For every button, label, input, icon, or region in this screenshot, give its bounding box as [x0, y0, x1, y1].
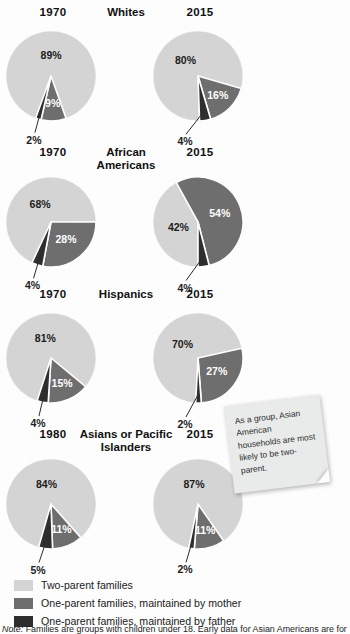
slice-label-two-parent: 68% — [30, 198, 52, 210]
year-label-left: 1970 — [23, 288, 83, 300]
footnote: Note: Families are groups with children … — [2, 624, 350, 634]
legend-label: Two-parent families — [41, 579, 133, 591]
slice-label-mother: 27% — [206, 365, 228, 377]
slice-label-two-parent: 89% — [41, 49, 63, 61]
year-label-right: 2015 — [170, 6, 230, 18]
pie-svg: 68%28%4% — [3, 174, 123, 284]
pie-chart-asians-1980: 84%11%5% — [3, 456, 123, 561]
legend-item-mother: One-parent families, maintained by mothe… — [14, 595, 344, 611]
year-label-left: 1980 — [23, 428, 83, 440]
slice-label-mother: 28% — [55, 233, 77, 245]
slice-label-two-parent: 87% — [183, 478, 205, 490]
legend-label: One-parent families, maintained by mothe… — [41, 597, 241, 609]
pie-chart-african-americans-1970: 68%28%4% — [3, 174, 123, 284]
year-label-left: 1970 — [23, 6, 83, 18]
slice-label-mother: 11% — [51, 523, 72, 535]
slice-label-two-parent: 70% — [172, 338, 194, 350]
slice-label-mother: 16% — [207, 89, 229, 101]
year-label-left: 1970 — [23, 146, 83, 158]
slice-label-mother: 9% — [45, 97, 61, 109]
slice-label-father: 2% — [26, 134, 42, 146]
legend: Two-parent families One-parent families,… — [14, 577, 344, 631]
group-label: Asians or Pacific Islanders — [78, 428, 174, 454]
callout-sticky-note: As a group, Asian American households ar… — [224, 394, 330, 493]
slice-label-mother: 54% — [209, 207, 231, 219]
slice-label-two-parent: 42% — [168, 221, 190, 233]
pie-chart-whites-1970: 89%9%2% — [3, 28, 123, 138]
legend-swatch-mother — [14, 598, 33, 609]
year-label-right: 2015 — [170, 288, 230, 300]
pie-svg: 42%54%4% — [150, 174, 270, 284]
pie-svg: 81%15%4% — [3, 310, 123, 420]
chart-row-hispanics: 1970 Hispanics 2015 81%15%4% 70%27%2% — [0, 288, 350, 318]
pie-svg: 84%11%5% — [3, 456, 123, 561]
pie-chart-african-americans-2015: 42%54%4% — [150, 174, 270, 284]
slice-label-mother: 15% — [52, 377, 74, 389]
group-label: African Americans — [78, 146, 174, 172]
chart-row-african-americans: 1970 African Americans 2015 68%28%4% 42%… — [0, 146, 350, 176]
slice-label-two-parent: 81% — [35, 332, 57, 344]
slice-label-father: 5% — [30, 564, 46, 576]
year-label-right: 2015 — [170, 146, 230, 158]
legend-item-two-parent: Two-parent families — [14, 577, 344, 593]
legend-swatch-two-parent — [14, 580, 33, 591]
row-header: 1970 African Americans 2015 — [0, 146, 350, 176]
slice-label-two-parent: 80% — [175, 54, 197, 66]
pie-svg: 89%9%2% — [3, 28, 123, 138]
group-label: Hispanics — [78, 288, 174, 301]
group-label: Whites — [78, 6, 174, 19]
chart-row-whites: 1970 Whites 2015 89%9%2% 80%16%4% — [0, 6, 350, 36]
footnote-text: Families are groups with children under … — [26, 624, 347, 634]
pie-svg: 80%16%4% — [150, 28, 270, 138]
slice-label-two-parent: 84% — [36, 478, 58, 490]
slice-label-father: 2% — [177, 563, 193, 575]
callout-text: As a group, Asian American households ar… — [234, 408, 315, 475]
pie-chart-whites-2015: 80%16%4% — [150, 28, 270, 138]
year-label-right: 2015 — [170, 428, 230, 440]
footnote-prefix: Note: — [2, 624, 23, 634]
pie-chart-hispanics-1970: 81%15%4% — [3, 310, 123, 420]
slice-label-mother: 11% — [195, 524, 216, 536]
